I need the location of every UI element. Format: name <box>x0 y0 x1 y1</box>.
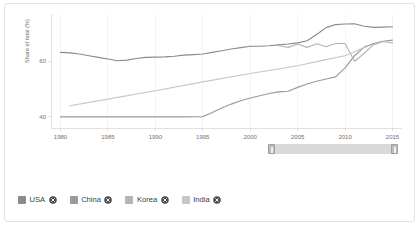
chart-area: Share of total (%) 406019801985199019952… <box>5 4 416 164</box>
plot-background <box>51 14 402 128</box>
y-tick-label: 60 <box>39 58 46 64</box>
legend-item-usa[interactable]: USA <box>18 196 57 204</box>
close-circle-icon[interactable] <box>161 196 169 204</box>
x-axis-ticks: 19801985199019952000200520102015 <box>54 128 400 140</box>
close-circle-icon[interactable] <box>213 196 221 204</box>
y-axis-ticks: 4060 <box>39 58 51 120</box>
x-tick-label: 2015 <box>386 134 400 140</box>
x-tick-label: 1980 <box>54 134 68 140</box>
legend-color-swatch <box>18 196 26 204</box>
chart-legend: USAChinaKoreaIndia <box>18 192 221 208</box>
chart-panel: Share of total (%) 406019801985199019952… <box>4 3 415 222</box>
x-tick-label: 1995 <box>196 134 210 140</box>
close-circle-icon[interactable] <box>104 196 112 204</box>
x-tick-label: 1985 <box>101 134 115 140</box>
x-tick-label: 2000 <box>244 134 258 140</box>
close-circle-icon[interactable] <box>49 196 57 204</box>
legend-item-korea[interactable]: Korea <box>125 196 168 204</box>
range-handle-right[interactable] <box>391 144 398 154</box>
chart-panel-root: Share of total (%) 406019801985199019952… <box>0 0 419 227</box>
legend-item-label: Korea <box>137 196 157 204</box>
x-tick-label: 2010 <box>338 134 352 140</box>
legend-item-india[interactable]: India <box>182 196 221 204</box>
range-handle-left[interactable] <box>268 144 275 154</box>
legend-item-label: India <box>193 196 209 204</box>
legend-color-swatch <box>70 196 78 204</box>
y-tick-label: 40 <box>39 114 46 120</box>
legend-item-label: China <box>81 196 101 204</box>
x-tick-label: 1990 <box>149 134 163 140</box>
legend-item-label: USA <box>30 196 46 204</box>
range-scrollbar[interactable] <box>268 144 398 154</box>
x-tick-label: 2005 <box>291 134 305 140</box>
legend-color-swatch <box>125 196 133 204</box>
legend-color-swatch <box>182 196 190 204</box>
line-chart[interactable]: 406019801985199019952000200520102015 <box>5 4 416 164</box>
drag-handle-icon <box>394 147 396 153</box>
legend-item-china[interactable]: China <box>70 196 113 204</box>
drag-handle-icon <box>271 147 273 153</box>
